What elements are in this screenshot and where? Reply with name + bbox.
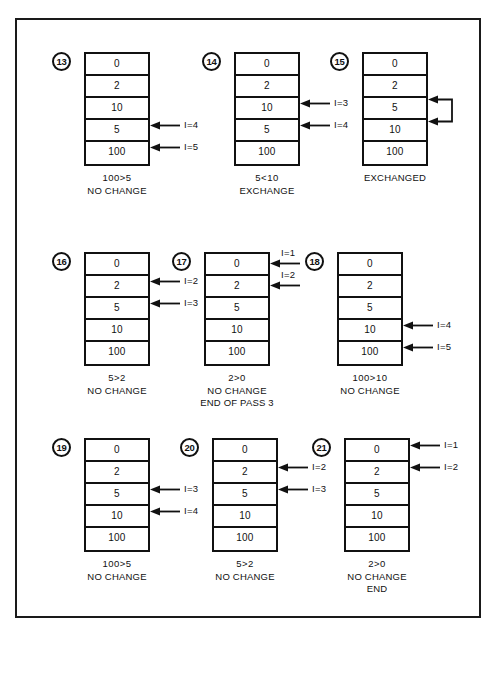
caption-line: NO CHANGE [57,385,177,398]
array-cell: 0 [214,440,276,462]
array-cell: 0 [364,54,426,76]
arrow-left-icon [278,462,308,473]
index-label: I=3 [334,97,348,109]
arrow-left-icon [403,342,433,353]
array-cell: 2 [364,76,426,98]
caption-line: NO CHANGE [317,571,437,584]
caption-line: 5>2 [57,372,177,385]
array-cell: 100 [86,142,148,164]
arrow-left-icon [150,506,180,517]
array-cell: 5 [339,298,401,320]
arrow-left-icon [300,98,330,109]
index-pointer: I=4 [300,119,348,131]
step-badge-19: 19 [52,438,71,457]
index-pointer: I=4 [150,119,198,131]
step-badge-18: 18 [305,252,324,271]
panel-caption-14: 5<10 EXCHANGE [207,172,327,197]
index-pointer: I=3 [300,97,348,109]
panel-caption-17: 2>0 NO CHANGE END OF PASS 3 [177,372,297,410]
array-cell: 2 [206,276,268,298]
array-cell: 5 [86,298,148,320]
index-pointer: I=5 [150,141,198,153]
panel-caption-16: 5>2 NO CHANGE [57,372,177,397]
index-pointer: I=5 [403,341,451,353]
array-cell: 5 [364,98,426,120]
index-label: I=2 [312,461,326,473]
arrow-left-icon [410,462,440,473]
array-cell: 2 [86,276,148,298]
array-cell: 2 [86,76,148,98]
array-cell: 100 [86,342,148,364]
array-cell: 0 [86,254,148,276]
caption-line: NO CHANGE [310,385,430,398]
array-cell: 0 [346,440,408,462]
array-box-16: 0 2 5 10 100 [84,252,150,366]
caption-line: EXCHANGE [207,185,327,198]
arrow-left-icon [300,120,330,131]
step-badge-15: 15 [330,52,349,71]
index-pointer: I=2 [278,461,326,473]
array-cell: 100 [86,528,148,550]
arrow-left-icon [410,440,440,451]
caption-line: END [317,583,437,596]
panel-caption-13: 100>5 NO CHANGE [57,172,177,197]
step-badge-21: 21 [312,438,331,457]
figure-frame: 13 0 2 10 5 100 I=4 I=5 100>5 NO CHANGE [15,18,481,618]
index-pointer: I=3 [278,483,326,495]
index-label: I=3 [184,297,198,309]
array-cell: 2 [339,276,401,298]
array-cell: 2 [214,462,276,484]
array-cell: 10 [339,320,401,342]
index-pointer: I=2 [410,461,458,473]
array-box-20: 0 2 5 10 100 [212,438,278,552]
step-badge-20: 20 [180,438,199,457]
array-cell: 10 [86,320,148,342]
arrow-left-icon [150,120,180,131]
arrow-left-icon [278,484,308,495]
caption-line: 5<10 [207,172,327,185]
index-label: I=4 [184,119,198,131]
arrow-left-icon [150,484,180,495]
index-pointer: I=4 [150,505,198,517]
array-cell: 5 [86,484,148,506]
caption-line: NO CHANGE [57,571,177,584]
array-cell: 10 [364,120,426,142]
panel-caption-21: 2>0 NO CHANGE END [317,558,437,596]
array-box-15: 0 2 5 10 100 [362,52,428,166]
array-cell: 2 [86,462,148,484]
index-pointer: I=1 [410,439,458,451]
index-pointer: I=4 [403,319,451,331]
caption-line: 5>2 [185,558,305,571]
array-cell: 100 [236,142,298,164]
array-cell: 100 [214,528,276,550]
array-box-19: 0 2 5 10 100 [84,438,150,552]
index-label: I=2 [184,275,198,287]
caption-line: END OF PASS 3 [177,397,297,410]
array-cell: 10 [214,506,276,528]
array-cell: 0 [339,254,401,276]
array-box-13: 0 2 10 5 100 [84,52,150,166]
panel-caption-15: EXCHANGED [335,172,455,185]
array-cell: 100 [339,342,401,364]
panel-caption-19: 100>5 NO CHANGE [57,558,177,583]
arrow-left-icon [150,142,180,153]
arrow-left-icon [270,280,300,291]
caption-line: 2>0 [177,372,297,385]
step-badge-17: 17 [172,252,191,271]
array-cell: 2 [346,462,408,484]
array-cell: 0 [86,440,148,462]
array-cell: 10 [86,98,148,120]
array-cell: 5 [86,120,148,142]
arrow-left-icon [150,298,180,309]
array-box-14: 0 2 10 5 100 [234,52,300,166]
index-label: I=1 [444,439,458,451]
arrow-left-icon [270,258,300,269]
index-label: I=2 [281,270,316,280]
step-badge-16: 16 [52,252,71,271]
step-badge-13: 13 [52,52,71,71]
array-cell: 10 [86,506,148,528]
array-cell: 100 [206,342,268,364]
array-cell: 0 [206,254,268,276]
index-pointer: I=2 [270,270,316,291]
index-label: I=2 [444,461,458,473]
